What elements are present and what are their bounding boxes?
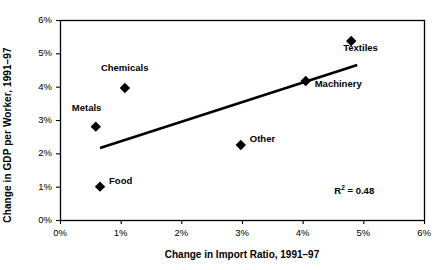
x-axis-tick-label: 1% [106,227,136,238]
y-axis-tick-label: 4% [24,81,52,92]
data-point-label: Food [109,175,132,186]
data-point-label: Textiles [343,42,378,53]
y-axis-tick-label: 5% [24,47,52,58]
x-axis-tick-label: 5% [348,227,378,238]
y-axis-tick-label: 2% [24,147,52,158]
scatter-chart: Change in GDP per Worker, 1991–97 Change… [0,0,446,270]
y-axis-tick-label: 6% [24,14,52,25]
data-point-label: Chemicals [101,62,149,73]
x-axis-tick-label: 0% [45,227,75,238]
y-axis-tick-label: 1% [24,181,52,192]
x-axis-tick-label: 4% [288,227,318,238]
data-point-label: Machinery [315,78,362,89]
x-axis-tick-label: 2% [166,227,196,238]
x-axis-tick-label: 6% [409,227,439,238]
y-axis-tick-label: 3% [24,114,52,125]
data-point-label: Other [250,133,275,144]
r-squared-annotation: R2 = 0.48 [334,185,374,196]
x-axis-tick-label: 3% [227,227,257,238]
y-axis-tick-label: 0% [24,214,52,225]
r-squared-value: = 0.48 [345,185,374,196]
data-point-label: Metals [72,102,102,113]
